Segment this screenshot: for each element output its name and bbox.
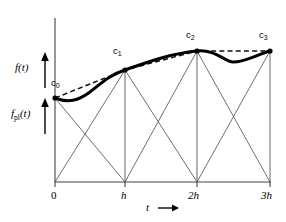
axes-group bbox=[55, 18, 271, 187]
x-tick-label-3h-text: 3h bbox=[261, 189, 272, 201]
x-tick-label-2h-text: 2h bbox=[188, 189, 199, 201]
true-function-curve bbox=[55, 51, 270, 101]
y-axis-label-fpl-sub: pl bbox=[14, 113, 20, 122]
x-tick-label-h: h bbox=[121, 190, 127, 201]
x-axis-label: t bbox=[146, 202, 149, 213]
node-label-c2: c2 bbox=[186, 30, 195, 40]
node-dot-c1 bbox=[122, 67, 127, 72]
node-label-c3: c3 bbox=[259, 30, 268, 40]
basis-line-e0-down bbox=[55, 98, 125, 182]
node-label-c3-sub: 3 bbox=[264, 34, 268, 41]
node-label-c1-sub: 1 bbox=[118, 50, 122, 57]
node-dot-c2 bbox=[194, 48, 199, 53]
y-axis-label-fpl-close: ) bbox=[27, 107, 31, 119]
node-label-c1: c1 bbox=[113, 46, 122, 56]
node-dot-c0 bbox=[52, 95, 57, 100]
basis-line-e1-down bbox=[125, 70, 197, 182]
y-label-arrow-upper bbox=[41, 52, 49, 88]
node-vertical-group bbox=[125, 51, 270, 182]
figure-container: c0 c1 c2 c3 f(t) fpl(t) 0 h 2h 3h t bbox=[0, 0, 286, 222]
node-dot-c3 bbox=[267, 48, 272, 53]
x-label-arrow bbox=[158, 205, 179, 212]
x-tick-label-0: 0 bbox=[51, 190, 57, 201]
node-label-c0-sub: 0 bbox=[56, 82, 60, 89]
y-axis-label-ft: f(t) bbox=[15, 62, 28, 73]
diagram-canvas bbox=[0, 0, 286, 222]
y-axis-label-fpl: fpl(t) bbox=[11, 108, 30, 119]
node-label-c0: c0 bbox=[51, 78, 60, 88]
x-tick-label-2h: 2h bbox=[188, 190, 199, 201]
y-axis-label-ft-close: ) bbox=[25, 61, 29, 73]
basis-line-e0-up bbox=[55, 70, 125, 182]
x-tick-label-3h: 3h bbox=[261, 190, 272, 201]
node-label-c2-sub: 2 bbox=[191, 34, 195, 41]
basis-line-e1-up bbox=[125, 51, 197, 182]
x-tick-label-h-text: h bbox=[121, 189, 127, 201]
basis-function-group bbox=[55, 51, 270, 182]
y-label-arrow-lower bbox=[41, 98, 49, 134]
